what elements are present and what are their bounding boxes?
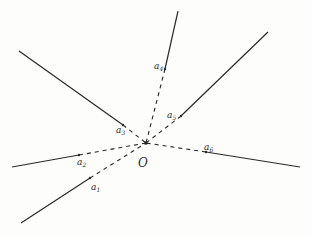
ray-a6: a6 [146,142,300,167]
ray-a4: a4 [146,11,178,143]
ray-solid-segment [19,51,123,125]
point-label-a2: a2 [77,157,86,168]
ray-solid-segment [21,178,90,223]
ray-dashed-segment [123,125,146,143]
rays-diagram: a1a2a3a4a5a6 O [0,0,312,237]
ray-dashed-segment [146,69,165,143]
origin-point: O [138,141,148,170]
ray-dashed-segment [146,143,206,152]
point-label-a6: a6 [204,142,213,153]
ray-solid-segment [165,11,178,69]
point-label-a4: a4 [154,61,163,72]
point-marker [180,115,182,117]
ray-a3: a3 [19,51,146,143]
point-marker [164,68,166,70]
ray-a5: a5 [146,32,268,143]
point-marker [89,177,91,179]
ray-a1: a1 [21,143,146,223]
point-marker [122,124,124,126]
ray-dashed-segment [79,143,146,155]
ray-solid-segment [206,152,300,167]
point-label-a1: a1 [91,182,100,193]
diagram-canvas: a1a2a3a4a5a6 O [0,0,312,237]
origin-label: O [138,156,148,170]
point-label-a3: a3 [116,125,125,136]
ray-solid-segment [12,155,79,167]
point-marker [78,154,80,156]
ray-solid-segment [181,32,268,116]
point-label-a5: a5 [167,110,176,121]
